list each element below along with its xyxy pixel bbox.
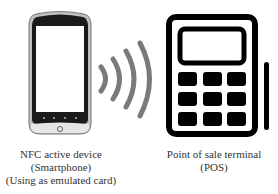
smartphone-label: NFC active device (Smartphone) (Using as… (0, 148, 122, 187)
pos-terminal-icon (169, 17, 269, 134)
pos-label-line-1: Point of sale terminal (152, 148, 276, 161)
smartphone-label-line-3: (Using as emulated card) (0, 174, 122, 187)
nfc-waves-icon (101, 43, 150, 116)
pos-label: Point of sale terminal (POS) (152, 148, 276, 174)
pos-label-line-2: (POS) (152, 161, 276, 174)
smartphone-label-line-1: NFC active device (0, 148, 122, 161)
smartphone-icon (29, 12, 91, 135)
smartphone-label-line-2: (Smartphone) (0, 161, 122, 174)
